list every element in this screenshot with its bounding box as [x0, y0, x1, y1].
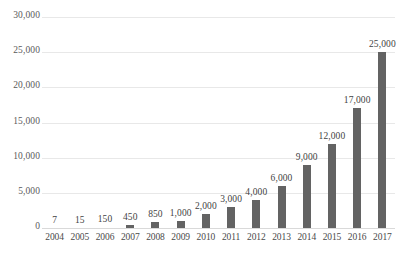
x-axis-tick-label: 2004 — [42, 232, 67, 242]
y-axis: 05,00010,00015,00020,00025,00030,000 — [0, 0, 40, 261]
bar-value-label: 6,000 — [271, 173, 293, 183]
bar-value-label: 9,000 — [296, 152, 318, 162]
bar-group[interactable]: 15 — [67, 17, 92, 228]
bar[interactable] — [227, 207, 235, 228]
bar[interactable] — [202, 214, 210, 228]
bar-value-label: 1,000 — [170, 208, 192, 218]
bar[interactable] — [328, 144, 336, 228]
y-axis-tick-label: 0 — [2, 221, 40, 231]
x-axis-tick-label: 2007 — [118, 232, 143, 242]
gridline — [42, 228, 395, 229]
bar-group[interactable]: 6,000 — [269, 17, 294, 228]
y-axis-tick-label: 25,000 — [2, 45, 40, 55]
bar-value-label: 12,000 — [319, 131, 346, 141]
bar-value-label: 4,000 — [245, 187, 267, 197]
bar[interactable] — [151, 222, 159, 228]
bar-chart: 05,00010,00015,00020,00025,00030,000 715… — [0, 0, 403, 261]
y-axis-tick-label: 30,000 — [2, 10, 40, 20]
bar-value-label: 17,000 — [344, 95, 371, 105]
bar-group[interactable]: 3,000 — [219, 17, 244, 228]
x-axis-tick-label: 2008 — [143, 232, 168, 242]
bar[interactable] — [126, 225, 134, 228]
x-axis-tick-label: 2014 — [294, 232, 319, 242]
y-axis-tick-label: 20,000 — [2, 80, 40, 90]
plot-area: 7151504508501,0002,0003,0004,0006,0009,0… — [42, 17, 395, 228]
bar[interactable] — [177, 221, 185, 228]
x-axis-tick-label: 2010 — [193, 232, 218, 242]
x-axis-tick-label: 2015 — [319, 232, 344, 242]
x-axis-tick-label: 2017 — [370, 232, 395, 242]
bar-value-label: 850 — [148, 209, 163, 219]
y-axis-tick-label: 10,000 — [2, 151, 40, 161]
bar-value-label: 15 — [75, 215, 85, 225]
bar-group[interactable]: 450 — [118, 17, 143, 228]
bar-group[interactable]: 17,000 — [345, 17, 370, 228]
bar[interactable] — [378, 52, 386, 228]
bar-value-label: 25,000 — [369, 39, 396, 49]
x-axis-tick-label: 2016 — [345, 232, 370, 242]
x-axis-tick-label: 2013 — [269, 232, 294, 242]
x-axis-tick-label: 2005 — [67, 232, 92, 242]
bar-group[interactable]: 25,000 — [370, 17, 395, 228]
bar-group[interactable]: 4,000 — [244, 17, 269, 228]
bar-value-label: 450 — [123, 212, 138, 222]
bar-value-label: 7 — [52, 215, 57, 225]
bar-group[interactable]: 150 — [92, 17, 117, 228]
y-axis-tick-label: 15,000 — [2, 116, 40, 126]
bar-group[interactable]: 2,000 — [193, 17, 218, 228]
bar-group[interactable]: 9,000 — [294, 17, 319, 228]
bar-value-label: 3,000 — [220, 194, 242, 204]
x-axis-tick-label: 2009 — [168, 232, 193, 242]
bar-group[interactable]: 1,000 — [168, 17, 193, 228]
bar-value-label: 2,000 — [195, 201, 217, 211]
bar-group[interactable]: 12,000 — [319, 17, 344, 228]
x-axis-tick-label: 2012 — [244, 232, 269, 242]
bar-value-label: 150 — [98, 214, 113, 224]
y-axis-tick-label: 5,000 — [2, 186, 40, 196]
bar[interactable] — [278, 186, 286, 228]
x-axis-tick-label: 2011 — [219, 232, 244, 242]
bar-group[interactable]: 7 — [42, 17, 67, 228]
bar[interactable] — [353, 108, 361, 228]
bar[interactable] — [252, 200, 260, 228]
x-axis-tick-label: 2006 — [92, 232, 117, 242]
bar[interactable] — [303, 165, 311, 228]
x-axis: 2004200520062007200820092010201120122013… — [42, 232, 395, 252]
bar-group[interactable]: 850 — [143, 17, 168, 228]
